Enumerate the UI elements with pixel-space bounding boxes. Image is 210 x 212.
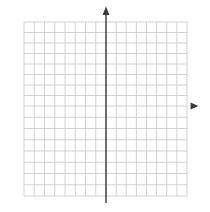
coordinate-plane — [0, 0, 210, 212]
coordinate-grid-svg — [0, 0, 210, 212]
